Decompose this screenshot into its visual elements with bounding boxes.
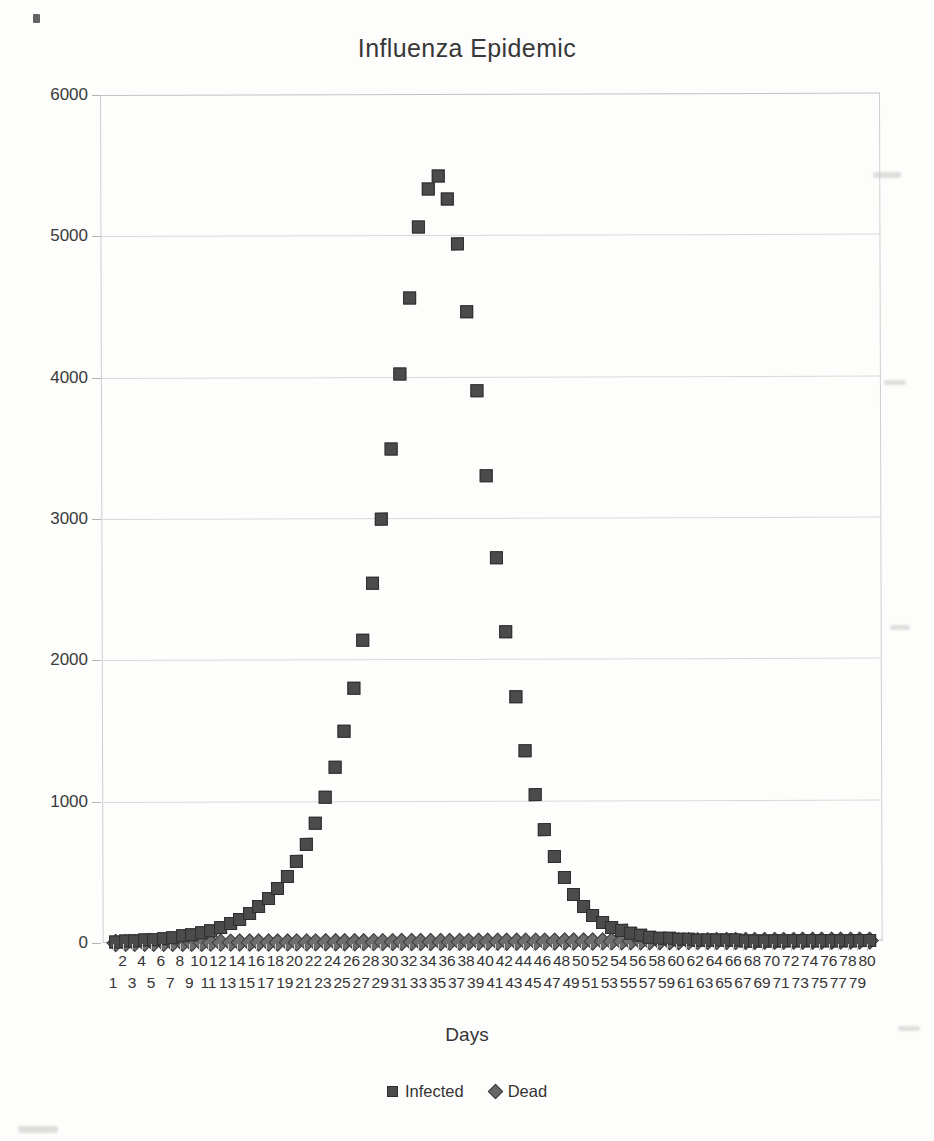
x-axis-tick-mark [743,944,744,951]
x-axis-tick-label: 19 [276,974,293,992]
x-axis-tick-label: 49 [563,974,580,992]
x-axis-tick-mark [590,944,591,951]
square-marker-icon [387,1086,398,1097]
x-axis-tick-label: 50 [572,952,589,970]
data-point-infected [548,850,561,863]
x-axis-tick-mark [867,944,868,951]
x-axis-tick-label: 63 [696,974,713,992]
x-axis-tick-mark [304,944,305,951]
gridline [100,234,880,237]
x-axis-tick-mark [151,944,152,951]
x-axis-tick-mark [800,944,801,951]
x-axis-tick-mark [313,944,314,951]
x-axis-tick-label: 18 [267,952,284,970]
data-point-infected [558,871,571,884]
x-axis-tick-mark [838,944,839,951]
data-point-infected [499,626,512,639]
x-axis-tick-label: 59 [658,974,675,992]
x-axis-tick-mark [733,944,734,951]
x-axis-tick-label: 68 [744,952,761,970]
scan-artifact-right-3 [890,625,910,630]
x-axis-tick-mark [609,944,610,951]
data-point-infected [356,633,369,646]
x-axis-tick-mark [619,944,620,951]
x-axis-tick-mark [848,944,849,951]
x-axis-tick-mark [199,944,200,951]
x-axis-tick-mark [571,944,572,951]
x-axis-tick-label: 53 [601,974,618,992]
x-axis-tick-mark [371,944,372,951]
x-axis-tick-mark [752,944,753,951]
x-axis-tick-label: 66 [725,952,742,970]
data-point-infected [441,192,454,205]
x-axis-tick-mark [810,944,811,951]
x-axis-tick-label: 11 [200,974,216,992]
x-axis-tick-mark [724,944,725,951]
x-axis-tick-label: 76 [820,952,837,970]
x-axis-tick-mark [705,944,706,951]
data-point-infected [403,291,416,304]
x-axis-tick-label: 14 [228,952,245,970]
x-axis-tick-label: 4 [137,952,146,970]
x-axis-tick-label: 47 [543,974,560,992]
x-axis-tick-label: 80 [858,952,875,970]
data-point-infected [529,788,542,801]
x-axis-tick-label: 70 [763,952,780,970]
x-axis-tick-label: 43 [505,974,522,992]
x-axis-tick-mark [352,944,353,951]
x-axis-tick-label: 22 [305,952,322,970]
x-axis-tick-mark [285,944,286,951]
x-axis-tick-mark [361,944,362,951]
x-axis-tick-mark [170,944,171,951]
x-axis-tick-mark [390,944,391,951]
x-axis-tick-mark [380,944,381,951]
gridline [102,799,882,802]
y-axis-tick-label: 5000 [8,226,88,246]
x-axis-tick-mark [542,944,543,951]
x-axis-tick-mark [409,944,410,951]
x-axis-tick-mark [600,944,601,951]
x-axis-tick-label: 57 [639,974,656,992]
gridline [101,375,881,378]
y-axis-tick-mark [92,519,101,520]
x-axis-tick-label: 2 [118,952,127,970]
x-axis-tick-label: 27 [353,974,370,992]
x-axis-tick-label: 44 [515,952,532,970]
x-axis-tick-mark [762,944,763,951]
x-axis-tick-mark [418,944,419,951]
x-axis-tick-mark [208,944,209,951]
diamond-marker-icon [487,1084,503,1100]
x-axis-tick-mark [495,944,496,951]
y-axis-tick-label: 6000 [8,85,88,105]
x-axis-tick-label: 36 [438,952,455,970]
x-axis-tick-mark [657,944,658,951]
x-axis-tick-label: 54 [610,952,627,970]
y-axis-tick-mark [92,378,101,379]
data-point-infected [271,882,284,895]
x-axis-tick-mark [667,944,668,951]
x-axis-tick-mark [457,944,458,951]
data-point-infected [490,551,503,564]
x-axis-tick-mark [791,944,792,951]
x-axis-tick-label: 15 [238,974,255,992]
x-axis-tick-label: 48 [553,952,570,970]
x-axis-tick-label: 1 [109,974,118,992]
x-axis-tick-label: 55 [620,974,637,992]
chart-title: Influenza Epidemic [0,34,934,63]
legend-label-infected: Infected [405,1082,464,1101]
x-axis-tick-label: 42 [496,952,513,970]
y-axis-tick-mark [92,95,101,96]
x-axis-tick-label: 61 [677,974,694,992]
x-axis-tick-mark [695,944,696,951]
x-axis-tick-label: 17 [257,974,274,992]
data-point-infected [480,469,493,482]
x-axis-tick-mark [686,944,687,951]
x-axis-tick-mark [647,944,648,951]
scan-artifact-right-2 [884,380,906,385]
x-axis-tick-mark [714,944,715,951]
x-axis-tick-mark [504,944,505,951]
x-axis-tick-mark [189,944,190,951]
x-axis-tick-mark [142,944,143,951]
x-axis-tick-label: 65 [715,974,732,992]
data-point-infected [538,823,551,836]
